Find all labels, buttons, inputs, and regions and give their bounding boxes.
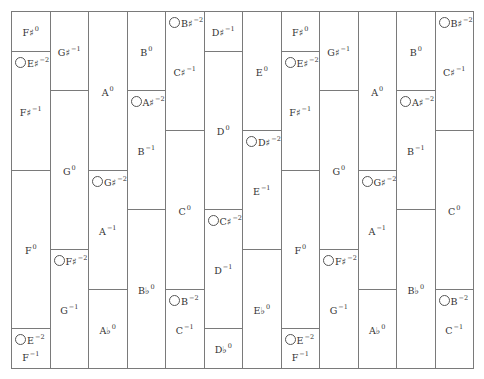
ringed-note-label: G♯−2 [362,176,397,188]
note-exponent: 0 [302,243,306,251]
note-cell: A♭0 [88,289,128,369]
note-exponent: −1 [186,64,196,72]
column-4: B♯−2C♯−1C0B−2C−1 [165,11,205,368]
note-exponent: −2 [309,56,319,64]
note-label: D0 [217,126,230,137]
note-name: G♯ [327,46,339,57]
ringed-note-label: E−2 [15,334,45,346]
note-exponent: 0 [420,282,424,290]
note-exponent: −1 [376,223,386,231]
note-exponent: −2 [189,294,199,302]
note-name: B♭ [407,284,418,295]
column-1: G♯−1G0F♯−2G−1 [50,11,90,368]
column-7: F♯0E♯−2F♯−1F0E−2F−1 [281,11,321,368]
note-name: F♯ [20,106,31,117]
ringed-note-label: E−2 [285,334,315,346]
note-label: F0 [25,245,37,256]
note-exponent: −1 [341,44,351,52]
note-cell: G♯−1 [50,11,90,91]
note-label: F−1 [22,352,39,363]
note-exponent: −1 [69,302,79,310]
note-label: B0 [140,46,152,57]
note-name: A [99,225,106,236]
note-exponent: −1 [32,104,42,112]
note-label: C0 [448,205,460,216]
note-name: A♯ [412,97,423,108]
note-name: D♭ [215,344,227,355]
note-name: A [371,86,378,97]
note-name: A♭ [369,324,380,335]
note-name: B♯ [451,18,463,29]
column-6: E0D♯−2E−1E♭0 [242,11,282,368]
note-name: G♯ [104,177,116,188]
ringed-note-label: B♯−2 [439,17,473,29]
note-name: E [253,185,260,196]
note-exponent: −2 [78,254,88,262]
ringed-note-label: D♯−2 [246,136,281,148]
note-cell: A0 [358,11,398,171]
circle-icon [323,255,334,266]
note-label: G−1 [330,304,348,315]
note-name: G♯ [58,46,70,57]
note-label: B0 [410,46,422,57]
column-5: D♯−1D0C♯−2D−1D♭0 [204,11,244,368]
circle-icon [362,176,373,187]
note-cell: E−2F−1 [281,328,321,369]
note-cell: A♯−2B−1 [127,90,167,210]
note-exponent: −1 [145,143,155,151]
ringed-note-label: B−2 [439,295,469,307]
note-cell: F♯0 [11,11,51,52]
note-label: F♯0 [23,27,39,38]
note-name: G [60,304,68,315]
note-name: B♯ [181,18,193,29]
note-label: A♭0 [100,324,116,335]
note-exponent: −1 [30,350,40,358]
note-label: C−1 [445,324,463,335]
note-name: B [451,296,458,307]
note-label: G0 [63,165,76,176]
note-cell: F0 [281,170,321,329]
note-cell: B0 [396,11,436,91]
ringed-note-label: F♯−2 [323,255,357,267]
note-cell: A♭0 [358,289,398,369]
note-exponent: 0 [150,282,154,290]
note-name: C♯ [443,66,455,77]
note-cell: G♯−2A−1 [88,170,128,290]
note-cell: F♯−2G−1 [50,249,90,369]
note-label: A0 [371,86,383,97]
note-cell: E♭0 [242,249,282,369]
note-label: E−1 [253,185,271,196]
note-exponent: −2 [40,56,50,64]
circle-icon [92,176,103,187]
note-name: B [140,46,147,57]
note-name: F♯ [66,256,77,267]
ringed-note-label: F♯−2 [54,255,88,267]
note-label: C♯−1 [174,66,196,77]
note-label: F♯0 [292,27,308,38]
note-cell: F0 [11,170,51,329]
note-exponent: −1 [223,262,233,270]
column-0: F♯0E♯−2F♯−1F0E−2F−1 [11,11,51,368]
note-exponent: 0 [187,203,191,211]
ringed-note-label: A♯−2 [400,96,434,108]
ringed-note-label: G♯−2 [92,176,127,188]
note-name: D♯ [258,137,270,148]
note-name: F♯ [335,256,346,267]
note-label: G♯−1 [58,46,81,57]
circle-icon [285,334,296,345]
note-name: F [292,353,299,364]
note-cell: B♭0 [127,209,167,369]
circle-icon [208,215,219,226]
note-name: E [297,335,304,346]
note-name: C♯ [220,216,232,227]
note-exponent: −2 [304,333,314,341]
note-exponent: 0 [35,25,39,33]
note-exponent: −1 [107,223,117,231]
note-name: E♯ [297,58,309,69]
ringed-note-label: E♯−2 [15,57,49,69]
note-cell: B♯−2C♯−1 [165,11,205,131]
note-name: G♯ [374,177,386,188]
note-label: B♭0 [407,284,424,295]
note-cell: B♭0 [396,209,436,369]
note-name: B [181,296,188,307]
